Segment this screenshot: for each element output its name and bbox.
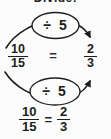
worksheet: Divide! ÷ 5 ÷ 5 10 15 = 2 3 10 15 = 2 3 [0, 0, 111, 139]
result-right-fraction: 2 3 [57, 106, 70, 132]
bottom-operation-label: ÷ 5 [32, 84, 78, 99]
left-fraction-numerator: 10 [8, 44, 28, 56]
left-fraction-denominator: 15 [8, 56, 28, 69]
right-fraction-denominator: 3 [84, 56, 97, 69]
result-left-denominator: 15 [19, 119, 39, 133]
result-left-fraction: 10 15 [19, 106, 39, 132]
left-fraction: 10 15 [8, 44, 28, 69]
result-right-denominator: 3 [57, 119, 70, 133]
equals-sign: = [45, 49, 61, 62]
top-operation-label: ÷ 5 [33, 18, 79, 33]
result-left-numerator: 10 [19, 106, 39, 119]
result-right-numerator: 2 [57, 106, 70, 119]
result-equation: 10 15 = 2 3 [19, 106, 70, 132]
result-equals-sign: = [44, 112, 52, 127]
right-fraction-numerator: 2 [84, 44, 97, 56]
right-fraction: 2 3 [84, 44, 97, 69]
